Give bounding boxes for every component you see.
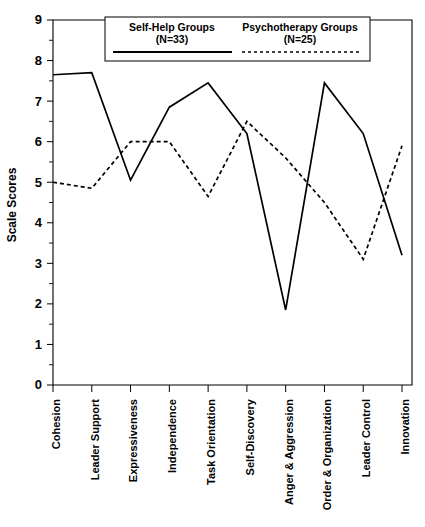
data-series-group — [53, 73, 402, 310]
chart-container: 0123456789 Scale Scores CohesionLeader S… — [0, 0, 425, 527]
y-axis-tick-label: 5 — [35, 175, 42, 190]
x-axis-category-label: Innovation — [399, 399, 411, 455]
x-axis-category-label: Anger & Aggression — [283, 399, 295, 505]
legend-entry-1-sublabel: (N=25) — [284, 33, 316, 45]
y-axis-tick-label: 3 — [35, 256, 42, 271]
y-axis: 0123456789 — [35, 12, 53, 392]
x-axis-category-label: Leader Control — [360, 399, 372, 477]
x-axis — [53, 385, 402, 392]
y-axis-tick-label: 7 — [35, 94, 42, 109]
x-axis-category-label: Order & Organization — [321, 399, 333, 511]
x-axis-category-label: Self-Discovery — [244, 398, 256, 475]
y-axis-tick-label: 2 — [35, 296, 42, 311]
series-line-2 — [53, 121, 402, 259]
x-axis-category-labels: CohesionLeader SupportExpressivenessInde… — [50, 398, 411, 510]
y-axis-tick-label: 1 — [35, 337, 42, 352]
y-axis-tick-label: 6 — [35, 134, 42, 149]
x-axis-category-label: Cohesion — [50, 399, 62, 449]
y-axis-tick-label: 9 — [35, 12, 42, 27]
y-axis-tick-label: 0 — [35, 377, 42, 392]
x-axis-category-label: Independence — [166, 399, 178, 473]
y-axis-tick-label: 8 — [35, 53, 42, 68]
chart-legend: Self-Help Groups (N=33) Psychotherapy Gr… — [105, 17, 370, 61]
y-axis-tick-label: 4 — [35, 215, 43, 230]
line-chart: 0123456789 Scale Scores CohesionLeader S… — [0, 0, 425, 527]
legend-entry-0-label: Self-Help Groups — [129, 21, 215, 33]
legend-entry-0-sublabel: (N=33) — [156, 33, 188, 45]
series-line-1 — [53, 73, 402, 310]
x-axis-category-label: Expressiveness — [127, 399, 139, 482]
y-axis-title: Scale Scores — [5, 167, 19, 242]
plot-frame — [53, 20, 412, 385]
x-axis-category-label: Leader Support — [89, 399, 101, 481]
x-axis-category-label: Task Orientation — [205, 399, 217, 485]
legend-entry-1-label: Psychotherapy Groups — [242, 21, 358, 33]
